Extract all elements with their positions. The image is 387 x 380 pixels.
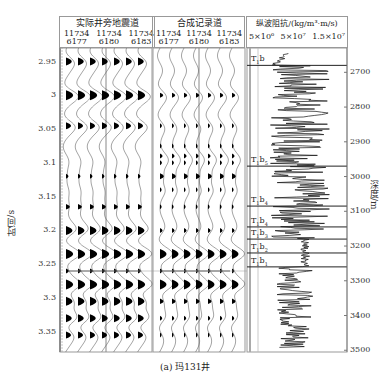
horizon-label: T1b4 bbox=[251, 195, 268, 206]
depth-tick-label: 2700 bbox=[350, 67, 370, 76]
horizon-label: T1b1 bbox=[251, 256, 268, 267]
time-tick-label: 3.3 bbox=[43, 293, 56, 302]
horizon-label: T1b2 bbox=[251, 242, 268, 253]
horizon-label: T1b4 bbox=[251, 216, 268, 227]
depth-tick-label: 3200 bbox=[350, 241, 370, 250]
time-tick-label: 2.95 bbox=[38, 57, 56, 66]
figure-caption: (a) 玛131井 bbox=[160, 360, 210, 373]
time-tick-label: 3.25 bbox=[38, 259, 56, 268]
depth-tick-label: 2800 bbox=[350, 102, 370, 111]
depth-tick-label: 2900 bbox=[350, 137, 370, 146]
depth-tick-label: 3300 bbox=[350, 276, 370, 285]
horizon-label: T1b5 bbox=[251, 155, 268, 166]
time-tick-label: 3.2 bbox=[43, 225, 56, 234]
depth-axis-label: 深度/m bbox=[368, 180, 381, 210]
horizon-label: T1b3 bbox=[251, 228, 268, 239]
depth-tick-label: 3500 bbox=[350, 345, 370, 354]
horizon-label: T1b bbox=[251, 54, 265, 65]
time-tick-label: 3.05 bbox=[38, 124, 56, 133]
time-tick-label: 3 bbox=[51, 90, 56, 99]
time-tick-label: 3.15 bbox=[38, 192, 56, 201]
time-axis-label: 时间/s bbox=[4, 210, 17, 236]
seismic-plot bbox=[0, 0, 387, 380]
time-tick-label: 3.1 bbox=[43, 158, 56, 167]
depth-tick-label: 3400 bbox=[350, 311, 370, 320]
time-tick-label: 3.35 bbox=[38, 327, 56, 336]
